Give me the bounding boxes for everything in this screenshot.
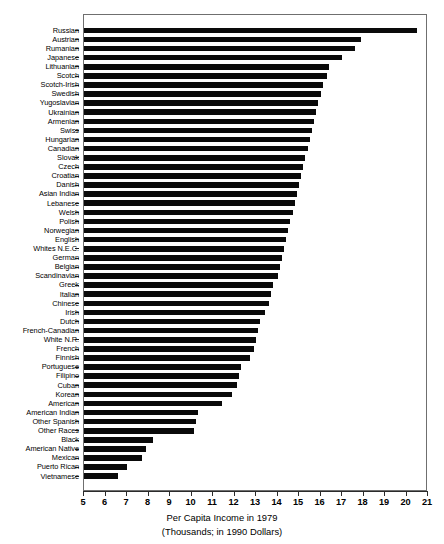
bar: [84, 64, 329, 70]
x-axis-tick: [320, 491, 321, 496]
bar-row: [84, 399, 426, 408]
y-axis-tick: [75, 194, 79, 195]
bar: [84, 319, 260, 325]
bar: [84, 164, 303, 170]
bar: [84, 173, 301, 179]
bar-row: [84, 354, 426, 363]
bar-row: [84, 153, 426, 162]
bar-row: [84, 208, 426, 217]
bar-row: [84, 217, 426, 226]
category-label: Hungarian: [45, 135, 79, 144]
bar-row: [84, 381, 426, 390]
x-axis-title: Per Capita Income in 1979: [0, 512, 444, 523]
bar: [84, 237, 286, 243]
bars-container: [84, 15, 426, 490]
y-axis-tick: [75, 94, 79, 95]
y-axis-tick: [75, 285, 79, 286]
bar: [84, 346, 254, 352]
bar-row: [84, 244, 426, 253]
y-axis-tick: [75, 130, 79, 131]
y-axis-tick: [75, 221, 79, 222]
y-axis-tick: [75, 358, 79, 359]
bar-row: [84, 254, 426, 263]
bar-row: [84, 35, 426, 44]
bar-row: [84, 72, 426, 81]
y-axis-tick: [75, 440, 79, 441]
bar-row: [84, 181, 426, 190]
y-axis-tick: [75, 185, 79, 186]
bar: [84, 382, 237, 388]
bar: [84, 310, 265, 316]
x-tick-label: 20: [400, 497, 410, 508]
bar: [84, 437, 153, 443]
x-tick-label: 8: [145, 497, 150, 508]
bar-row: [84, 263, 426, 272]
bar-row: [84, 445, 426, 454]
x-tick-label: 10: [185, 497, 195, 508]
bar-row: [84, 317, 426, 326]
category-label: American Indian: [26, 408, 79, 417]
x-axis-tick: [384, 491, 385, 496]
x-tick-label: 17: [336, 497, 346, 508]
x-tick-label: 12: [228, 497, 238, 508]
category-label: Norwegian: [44, 226, 79, 235]
y-axis-tick: [75, 449, 79, 450]
y-axis-tick: [75, 230, 79, 231]
category-label: Rumanian: [46, 44, 79, 53]
y-axis-tick: [75, 458, 79, 459]
bar: [84, 337, 256, 343]
x-tick-label: 18: [357, 497, 367, 508]
x-tick-label: 7: [123, 497, 128, 508]
y-axis-tick: [75, 321, 79, 322]
bar-row: [84, 299, 426, 308]
y-axis-tick: [75, 39, 79, 40]
bar-row: [84, 62, 426, 71]
bar: [84, 73, 327, 79]
y-axis-tick: [75, 312, 79, 313]
bar: [84, 119, 314, 125]
bar: [84, 200, 295, 206]
bar: [84, 28, 417, 34]
y-axis-tick: [75, 403, 79, 404]
bar: [84, 455, 142, 461]
x-axis-tick: [105, 491, 106, 496]
category-label: Scandinavian: [35, 271, 79, 280]
bar: [84, 37, 361, 43]
bar: [84, 109, 316, 115]
bar: [84, 191, 297, 197]
bar: [84, 219, 290, 225]
bar: [84, 82, 323, 88]
bar-row: [84, 454, 426, 463]
bar-row: [84, 172, 426, 181]
y-axis-tick: [75, 394, 79, 395]
bar: [84, 364, 241, 370]
bar-row: [84, 135, 426, 144]
bar: [84, 128, 312, 134]
x-axis-tick: [169, 491, 170, 496]
bar: [84, 464, 127, 470]
bar-row: [84, 472, 426, 481]
bar-row: [84, 345, 426, 354]
bar-row: [84, 463, 426, 472]
bar: [84, 328, 258, 334]
x-tick-label: 6: [102, 497, 107, 508]
bar: [84, 91, 321, 97]
bar: [84, 246, 284, 252]
bar: [84, 46, 355, 52]
bar: [84, 301, 269, 307]
y-axis-tick: [75, 276, 79, 277]
bar-row: [84, 281, 426, 290]
x-tick-label: 19: [379, 497, 389, 508]
bar-row: [84, 99, 426, 108]
category-label: Yugoslavian: [40, 98, 79, 107]
x-tick-label: 15: [293, 497, 303, 508]
bar: [84, 401, 222, 407]
y-axis-tick: [75, 76, 79, 77]
y-axis-tick: [75, 421, 79, 422]
bar: [84, 228, 288, 234]
x-tick-label: 9: [166, 497, 171, 508]
bar-row: [84, 417, 426, 426]
bar-row: [84, 199, 426, 208]
y-axis-tick: [75, 294, 79, 295]
y-axis-tick: [75, 48, 79, 49]
